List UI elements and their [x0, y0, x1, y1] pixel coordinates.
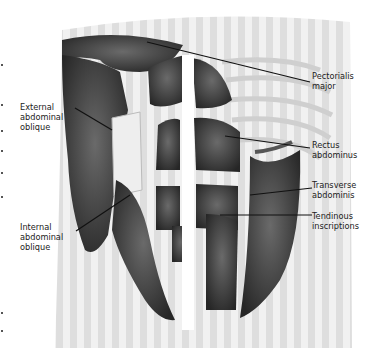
- anatomy-figure: Pectorialis major External abdominal obl…: [0, 0, 367, 348]
- label-tendinous-inscriptions: Tendinous inscriptions: [312, 211, 359, 231]
- edge-mark: [1, 130, 3, 132]
- edge-mark: [1, 196, 3, 198]
- edge-mark: [1, 150, 3, 152]
- label-line: Rectus: [312, 140, 357, 150]
- label-line: oblique: [20, 122, 63, 132]
- label-pectoralis-major: Pectorialis major: [312, 71, 354, 91]
- label-transverse-abdominis: Transverse abdominis: [312, 180, 356, 200]
- label-external-oblique: External abdominal oblique: [20, 102, 63, 132]
- abdominal-muscles-illustration: [0, 0, 367, 348]
- label-line: Pectorialis: [312, 71, 354, 81]
- edge-mark: [1, 172, 3, 174]
- label-line: abdominal: [20, 232, 63, 242]
- edge-mark: [1, 64, 3, 66]
- label-line: abdominis: [312, 190, 356, 200]
- label-line: Tendinous: [312, 211, 359, 221]
- label-line: oblique: [20, 242, 63, 252]
- label-line: abdominal: [20, 112, 63, 122]
- label-rectus-abdominus: Rectus abdominus: [312, 140, 357, 160]
- edge-mark: [1, 312, 3, 314]
- label-internal-oblique: Internal abdominal oblique: [20, 222, 63, 252]
- label-line: inscriptions: [312, 221, 359, 231]
- label-line: External: [20, 102, 63, 112]
- edge-mark: [1, 330, 3, 332]
- label-line: Transverse: [312, 180, 356, 190]
- label-line: major: [312, 81, 354, 91]
- label-line: abdominus: [312, 150, 357, 160]
- label-line: Internal: [20, 222, 63, 232]
- edge-mark: [1, 104, 3, 106]
